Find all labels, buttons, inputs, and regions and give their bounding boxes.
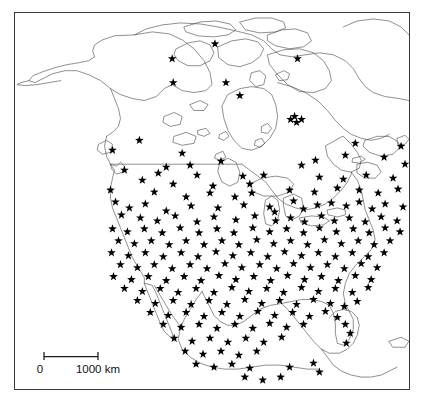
- station-star-marker: [235, 240, 244, 248]
- station-star-marker: [373, 263, 382, 271]
- station-star-marker: [240, 295, 249, 303]
- station-star-marker: [248, 223, 257, 231]
- station-star-marker: [368, 204, 377, 212]
- station-star-marker: [162, 163, 171, 171]
- station-star-marker: [348, 248, 357, 256]
- station-star-marker: [235, 351, 244, 359]
- station-star-marker: [305, 312, 314, 320]
- station-star-marker: [340, 264, 349, 272]
- station-star-marker: [309, 295, 318, 303]
- station-star-marker: [323, 260, 332, 268]
- station-star-marker: [377, 212, 386, 220]
- station-star-marker: [218, 308, 227, 316]
- station-star-marker: [217, 157, 226, 165]
- station-star-marker: [297, 161, 306, 169]
- station-star-marker: [150, 260, 159, 268]
- station-star-marker: [215, 271, 224, 279]
- station-star-marker: [245, 180, 254, 188]
- station-star-marker: [393, 216, 402, 224]
- station-star-marker: [222, 78, 231, 86]
- station-star-marker: [180, 272, 189, 280]
- station-star-marker: [212, 247, 221, 255]
- station-star-marker: [317, 272, 326, 280]
- station-star-marker: [245, 364, 254, 372]
- station-star-marker: [187, 201, 196, 209]
- station-star-marker: [241, 334, 250, 342]
- station-star-marker: [339, 175, 348, 183]
- station-star-marker: [130, 239, 139, 247]
- station-star-marker: [381, 223, 390, 231]
- station-star-marker: [346, 329, 355, 337]
- station-star-marker: [199, 350, 208, 358]
- station-star-marker: [386, 236, 395, 244]
- station-star-marker: [151, 299, 160, 307]
- station-star-marker: [230, 228, 239, 236]
- station-star-marker: [327, 198, 336, 206]
- station-star-marker: [178, 149, 187, 157]
- station-star-marker: [282, 224, 291, 232]
- figure-container: 0 1000 km: [0, 0, 423, 407]
- station-star-marker: [140, 224, 149, 232]
- station-star-marker: [182, 236, 191, 244]
- station-star-marker: [231, 320, 240, 328]
- station-star-marker: [250, 211, 259, 219]
- station-star-marker: [313, 200, 322, 208]
- station-star-marker: [124, 251, 133, 259]
- station-star-marker: [300, 217, 309, 225]
- station-star-marker: [277, 333, 286, 341]
- station-star-marker: [146, 308, 155, 316]
- station-star-marker: [214, 203, 223, 211]
- station-star-marker: [265, 319, 274, 327]
- station-star-marker: [253, 307, 262, 315]
- station-star-marker: [158, 228, 167, 236]
- station-star-marker: [108, 224, 117, 232]
- station-star-marker: [246, 248, 255, 256]
- station-star-marker: [354, 236, 363, 244]
- station-star-marker: [275, 296, 284, 304]
- map-frame: [14, 12, 410, 390]
- station-star-marker: [162, 206, 171, 214]
- station-star-marker: [367, 275, 376, 283]
- station-star-marker: [315, 223, 324, 231]
- station-star-marker: [206, 334, 215, 342]
- station-star-marker: [181, 347, 190, 355]
- station-star-marker: [355, 185, 364, 193]
- station-star-marker: [333, 183, 342, 191]
- station-star-marker: [266, 276, 275, 284]
- station-star-marker: [258, 375, 267, 383]
- station-star-marker: [221, 259, 230, 267]
- station-star-marker: [286, 236, 295, 244]
- station-star-marker: [138, 287, 147, 295]
- station-star-marker: [141, 199, 150, 207]
- station-star-marker: [209, 182, 218, 190]
- station-star-marker: [399, 202, 408, 210]
- scale-label-distance: 1000 km: [76, 363, 120, 375]
- station-star-marker: [187, 300, 196, 308]
- scale-bar: 0 1000 km: [26, 344, 166, 376]
- station-star-marker: [109, 272, 118, 280]
- station-star-marker: [361, 217, 370, 225]
- station-star-marker: [341, 151, 350, 159]
- station-star-marker: [203, 264, 212, 272]
- station-star-marker: [165, 240, 174, 248]
- station-star-marker: [117, 210, 126, 218]
- station-star-marker: [315, 173, 324, 181]
- station-star-marker: [299, 204, 308, 212]
- station-star-marker: [159, 320, 168, 328]
- station-star-marker: [108, 146, 117, 154]
- station-star-marker: [314, 287, 323, 295]
- station-star-marker: [162, 276, 171, 284]
- station-star-marker: [394, 184, 403, 192]
- station-star-marker: [164, 311, 173, 319]
- station-star-marker: [348, 288, 357, 296]
- station-star-marker: [270, 311, 279, 319]
- station-star-marker: [297, 283, 306, 291]
- scale-label-zero: 0: [37, 363, 43, 375]
- station-star-marker: [194, 252, 203, 260]
- station-star-marker: [123, 227, 132, 235]
- station-star-marker: [206, 188, 215, 196]
- station-star-marker: [168, 54, 177, 62]
- station-star-marker: [349, 224, 358, 232]
- station-star-marker: [303, 240, 312, 248]
- station-star-marker: [332, 227, 341, 235]
